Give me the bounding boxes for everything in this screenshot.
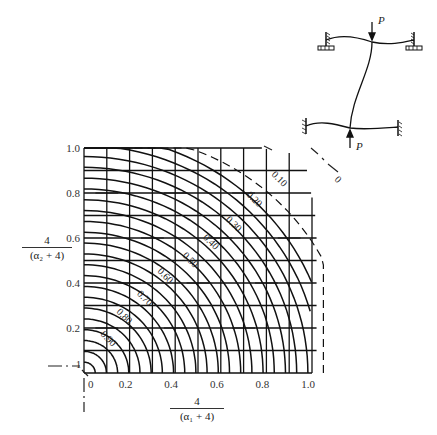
contour-label: 0 (333, 174, 344, 185)
x-tick-label: 0.8 (256, 378, 270, 390)
x-tick-label: 1.0 (301, 378, 315, 390)
top-beam (326, 36, 414, 43)
y-axis-label: 4 (α₂ + 4) (22, 234, 72, 262)
bottom-beam (306, 123, 398, 129)
frame-diagram (302, 22, 422, 148)
contour-label: 0.80 (115, 306, 135, 326)
y-axis-label-numerator: 4 (22, 234, 72, 247)
load-label-bottom: P (355, 140, 363, 152)
contour-label: 0.10 (270, 169, 290, 189)
x-axis-label-denominator: (α₁ + 4) (170, 408, 224, 423)
contour-curve (84, 286, 174, 373)
column (350, 42, 372, 128)
contour-curve (84, 232, 230, 373)
y-axis-label-denominator: (α₂ + 4) (22, 247, 72, 262)
x-tick-label: 0.2 (119, 378, 133, 390)
x-axis-label: 4 (α₁ + 4) (170, 395, 224, 423)
contour-curve (84, 276, 185, 373)
x-tick-label: 0.6 (210, 378, 224, 390)
y-tick-label: 0.4 (66, 277, 80, 289)
contour-label: 0.20 (244, 189, 264, 209)
y-tick-label: 0.8 (66, 187, 80, 199)
corner-label-one: 1 (76, 359, 81, 370)
x-tick-label: 0 (88, 378, 94, 390)
nomograph-figure: 0.900.800.700.600.500.400.300.200.100 00… (0, 0, 437, 435)
contour-curve (84, 254, 207, 373)
x-tick-label: 0.4 (164, 378, 178, 390)
contour-curve (84, 362, 95, 373)
contour-label: 0.40 (201, 232, 221, 252)
contour-label: 0.30 (224, 214, 244, 234)
y-tick-label: 0.2 (66, 322, 80, 334)
load-label-top: P (377, 14, 385, 26)
x-axis-label-numerator: 4 (170, 395, 224, 408)
y-tick-label: 1.0 (66, 142, 80, 154)
